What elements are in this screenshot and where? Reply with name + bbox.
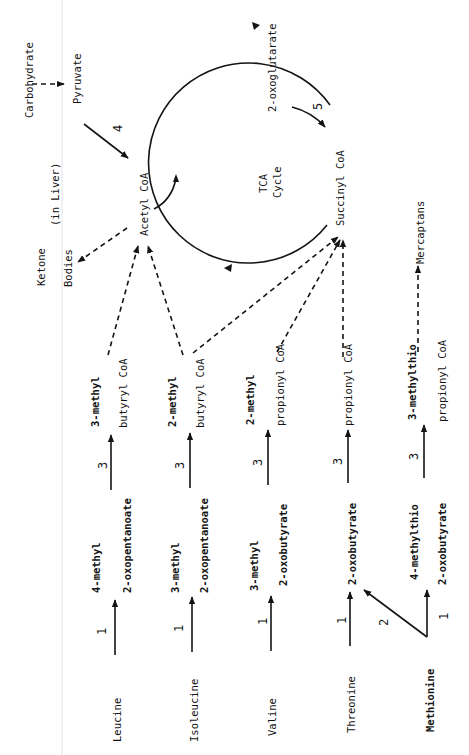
tca-arrowhead-top — [252, 22, 260, 30]
step-5-label: 5 — [311, 103, 325, 110]
keto-acid-line2: 2-oxobutyrate — [436, 503, 448, 585]
keto-acid-line1: 3-methyl — [248, 540, 260, 591]
step-2-label: 2 — [377, 619, 391, 626]
mercaptans-label: Mercaptans — [414, 201, 426, 264]
ketone-label: Ketone — [35, 248, 47, 286]
coa-line2: butyryl CoA — [194, 358, 206, 428]
coa-line1: 2-methyl — [166, 376, 178, 427]
coa-line1: 3-methylthio — [406, 344, 418, 420]
pathway-methionine: Methionine 1 4-methylthio 2-oxobutyrate … — [406, 339, 451, 732]
keto-acid-line2: 2-oxopentanoate — [198, 498, 210, 593]
step-4-label: 4 — [111, 125, 125, 132]
pyruvate-label: Pyruvate — [71, 53, 83, 104]
cycle-label: Cycle — [271, 166, 283, 198]
tca-label: TCA — [257, 173, 269, 193]
isoleucine-coa-to-succinylcoa-arrow — [193, 237, 338, 353]
methionine-step-2-arrow — [364, 590, 427, 637]
isoleucine-coa-to-acetylcoa-arrow — [148, 246, 183, 355]
valine-coa-to-succinylcoa-arrow — [277, 240, 340, 352]
acetyl-coa-label: Acetyl CoA — [138, 172, 150, 236]
amino-acid-label: Methionine — [424, 669, 436, 732]
coa-line2: propionyl CoA — [274, 343, 286, 426]
keto-acid-line2: 2-oxopentanoate — [121, 498, 133, 593]
step-3-label: 3 — [173, 462, 187, 469]
pathway-valine: Valine 1 3-methyl 2-oxobutyrate 3 2-meth… — [244, 343, 289, 736]
pathway-isoleucine: Isoleucine 1 3-methyl 2-oxopentanoate 3 … — [166, 358, 210, 742]
amino-acid-label: Leucine — [111, 698, 123, 742]
pathway-leucine: Leucine 1 4-methyl 2-oxopentanoate 3 3-m… — [89, 358, 133, 742]
tca-arrowhead-left — [173, 174, 179, 182]
keto-acid-line1: 4-methylthio — [408, 504, 420, 580]
in-liver-label: (in Liver) — [49, 163, 61, 226]
tca-cycle: TCA Cycle — [149, 22, 330, 272]
keto-acid-line2: 2-oxobutyrate — [346, 503, 358, 585]
tca-arrowhead-bottom — [224, 264, 232, 272]
step-3-label: 3 — [251, 459, 265, 466]
amino-acid-label: Isoleucine — [188, 679, 200, 742]
coa-line1: 2-methyl — [244, 374, 256, 425]
acetylcoa-to-ketone-arrow — [78, 228, 127, 262]
step-3-label: 3 — [96, 462, 110, 469]
coa-line2: propionyl CoA — [436, 339, 448, 422]
keto-acid-line1: 4-methyl — [90, 542, 102, 593]
amino-acid-label: Threonine — [345, 676, 357, 733]
oxoglutarate-label: 2-oxoglutarate — [266, 23, 278, 112]
amino-acid-label: Valine — [266, 698, 278, 736]
succinyl-coa-label: Succinyl CoA — [334, 149, 346, 226]
keto-acid-line2: 2-oxobutyrate — [277, 504, 289, 586]
tca-arc — [149, 63, 330, 263]
carbohydrate-label: Carbohydrate — [23, 42, 35, 118]
step-1-label: 1 — [335, 617, 349, 624]
step-3-label: 3 — [331, 458, 345, 465]
step-1-label: 1 — [95, 628, 109, 635]
step-1-label: 1 — [256, 618, 270, 625]
coa-line2: propionyl CoA — [342, 343, 354, 426]
leucine-coa-to-acetylcoa-arrow — [108, 246, 138, 355]
coa-line1: 3-methyl — [89, 376, 101, 427]
bodies-label: Bodies — [62, 249, 74, 287]
step-3-label: 3 — [407, 453, 421, 460]
step-1-label: 1 — [172, 625, 186, 632]
metabolic-pathway-diagram: Carbohydrate Pyruvate 4 Acetyl CoA (in L… — [0, 0, 469, 755]
pathway-threonine: Threonine 1 2-oxobutyrate 3 propionyl Co… — [331, 343, 358, 733]
coa-line2: butyryl CoA — [117, 358, 129, 428]
keto-acid-line1: 3-methyl — [169, 542, 181, 593]
step-1-label: 1 — [437, 613, 451, 620]
